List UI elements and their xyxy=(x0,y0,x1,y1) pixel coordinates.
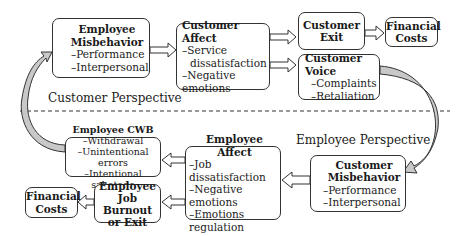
node-customer-voice: Customer Voice –Complaints –Retaliation xyxy=(298,54,380,100)
node-title: Customer xyxy=(299,19,364,32)
node-title: Misbehavior xyxy=(323,171,405,184)
node-employee-cwb: Employee CWB –Withdrawal –Unintentional … xyxy=(65,137,161,177)
arrow-cust-misb-to-emp-affect xyxy=(282,172,310,188)
arrow-cust-affect-to-exit xyxy=(270,30,296,44)
node-title: Employee Affect xyxy=(189,133,280,158)
node-item: –Service xyxy=(182,44,269,57)
node-financial-costs-top: Financial Costs xyxy=(385,17,438,47)
arrow-emp-affect-to-burnout xyxy=(162,195,185,209)
node-title: Job Burnout xyxy=(95,192,160,216)
node-title: Employee xyxy=(95,180,160,192)
node-item: –Performance xyxy=(65,48,149,61)
node-item: –Job dissatisfaction xyxy=(189,158,280,183)
node-item: –Negative emotions xyxy=(182,69,269,94)
node-title: Exit xyxy=(299,31,364,44)
node-title: Costs xyxy=(386,32,437,45)
node-employee-misbehavior: Employee Misbehavior –Performance –Inter… xyxy=(52,18,150,78)
node-title: Customer Affect xyxy=(182,19,269,44)
node-title: Customer xyxy=(323,159,405,172)
node-title: Financial xyxy=(386,20,437,33)
node-employee-affect: Employee Affect –Job dissatisfaction –Ne… xyxy=(185,146,281,220)
node-title: Misbehavior xyxy=(65,36,149,49)
node-title: Financial xyxy=(26,190,77,203)
arrow-cust-affect-to-voice xyxy=(270,58,296,72)
node-item: –Withdrawal xyxy=(66,135,160,146)
customer-perspective-label: Customer Perspective xyxy=(48,91,182,105)
node-customer-exit: Customer Exit xyxy=(298,12,365,50)
node-employee-burnout: Employee Job Burnout or Exit xyxy=(94,184,161,223)
node-item: –Interpersonal xyxy=(65,61,149,74)
node-title: Employee xyxy=(65,23,149,36)
node-item: –Performance xyxy=(323,184,405,197)
employee-perspective-label: Employee Perspective xyxy=(296,133,430,147)
node-item: –Emotions regulation xyxy=(189,208,280,233)
node-customer-affect: Customer Affect –Service dissatisfaction… xyxy=(176,23,270,90)
node-item: –Complaints xyxy=(305,77,379,90)
node-item: –Interpersonal xyxy=(323,196,405,209)
arrow-emp-affect-to-cwb xyxy=(162,153,185,167)
arrow-emp-misb-to-cust-affect xyxy=(150,43,176,57)
node-financial-costs-bottom: Financial Costs xyxy=(25,187,78,218)
node-item: –Negative emotions xyxy=(189,183,280,208)
node-item: –Retaliation xyxy=(305,90,379,103)
node-title: Employee CWB xyxy=(66,124,160,135)
arrow-exit-to-costs xyxy=(365,26,384,40)
node-customer-misbehavior: Customer Misbehavior –Performance –Inter… xyxy=(310,155,406,212)
node-item: –Unintentional errors xyxy=(66,146,160,168)
node-item: dissatisfaction xyxy=(182,57,269,70)
node-title: Customer Voice xyxy=(305,52,379,77)
node-title: or Exit xyxy=(95,216,160,228)
node-title: Costs xyxy=(26,203,77,216)
